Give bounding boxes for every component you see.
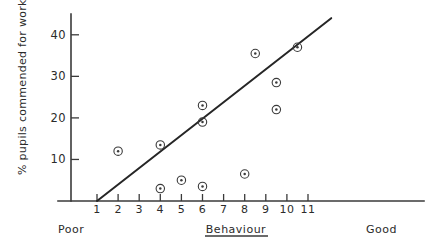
x-tick-label: 8 xyxy=(241,203,248,216)
x-tick-label: 2 xyxy=(114,203,121,216)
data-point-center xyxy=(159,187,162,190)
y-tick-label: 10 xyxy=(51,152,66,166)
scatter-chart: 10203040 1234567891011 % pupils commende… xyxy=(0,0,432,242)
y-axis-title: % pupils commended for work xyxy=(16,0,29,175)
data-point xyxy=(156,141,164,149)
y-tick-label: 40 xyxy=(51,28,66,42)
data-point-center xyxy=(275,108,278,111)
x-axis-title: Behaviour xyxy=(206,223,266,236)
y-tick-label: 20 xyxy=(51,111,66,125)
x-tick-label: 1 xyxy=(93,203,100,216)
x-tick-label: 7 xyxy=(220,203,227,216)
x-axis-low-label: Poor xyxy=(58,223,84,236)
data-point xyxy=(272,105,280,113)
y-tick-label: 30 xyxy=(51,69,66,83)
x-tick-label: 10 xyxy=(279,203,294,216)
x-tick-label: 11 xyxy=(301,203,316,216)
x-tick-label: 5 xyxy=(178,203,185,216)
data-point xyxy=(272,78,280,86)
data-point xyxy=(198,101,206,109)
data-point-center xyxy=(201,185,204,188)
x-tick-label: 6 xyxy=(199,203,206,216)
regression-line xyxy=(97,18,331,201)
data-point xyxy=(251,49,259,57)
data-point xyxy=(241,170,249,178)
x-tick-label: 4 xyxy=(157,203,164,216)
data-point-center xyxy=(243,173,246,176)
data-point xyxy=(156,184,164,192)
chart-svg: 10203040 1234567891011 % pupils commende… xyxy=(0,0,432,242)
data-point-center xyxy=(180,179,183,182)
data-point xyxy=(198,182,206,190)
data-point-center xyxy=(254,52,257,55)
x-axis-ticks: 1234567891011 xyxy=(93,194,315,216)
y-axis-ticks: 10203040 xyxy=(51,28,79,167)
data-point-center xyxy=(296,46,299,49)
data-points xyxy=(114,43,302,193)
x-axis-high-label: Good xyxy=(366,223,397,236)
data-point-center xyxy=(201,104,204,107)
data-point-center xyxy=(201,121,204,124)
x-tick-label: 3 xyxy=(135,203,142,216)
data-point xyxy=(114,147,122,155)
x-tick-label: 9 xyxy=(262,203,269,216)
data-point-center xyxy=(159,144,162,147)
data-point xyxy=(177,176,185,184)
data-point-center xyxy=(275,81,278,84)
data-point-center xyxy=(117,150,120,153)
